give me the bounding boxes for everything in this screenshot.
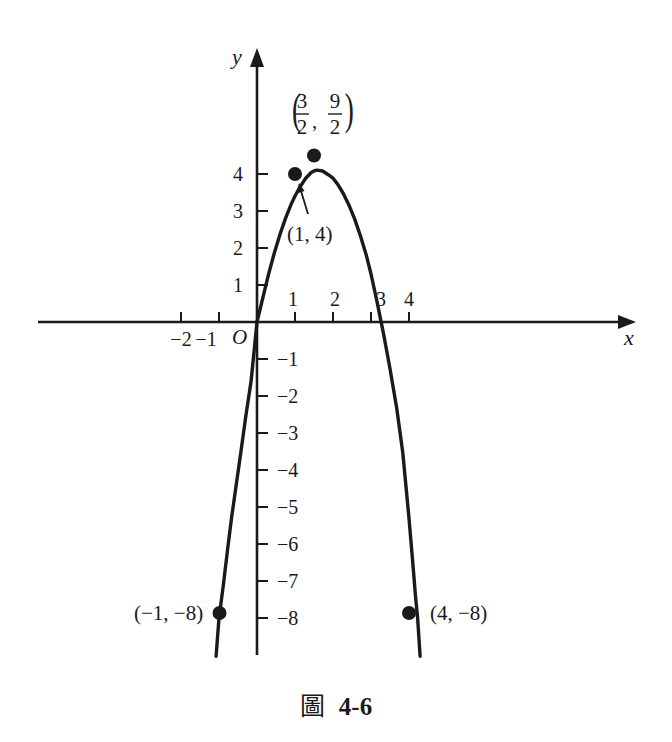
point-1-4 <box>288 167 302 181</box>
figure-caption: 圖4-6 <box>0 686 672 722</box>
svg-text:2: 2 <box>330 115 341 139</box>
y-tick-label: 4 <box>233 163 243 185</box>
y-ticks <box>257 174 268 618</box>
point-4-m8 <box>402 606 416 620</box>
svg-text:,: , <box>312 109 317 133</box>
y-axis-arrow-icon <box>250 48 264 67</box>
parabola-figure: −2 −1 1 2 3 4 4 3 2 1 −1 −2 −3 −4 −5 −6 … <box>0 0 672 742</box>
vertex-point <box>307 149 321 163</box>
y-tick-label: −7 <box>277 570 298 592</box>
svg-text:): ) <box>345 84 354 133</box>
svg-text:2: 2 <box>297 115 308 139</box>
svg-text:3: 3 <box>297 89 308 113</box>
svg-text:9: 9 <box>330 89 341 113</box>
x-tick-label: 4 <box>404 288 414 310</box>
y-tick-label: −3 <box>277 422 298 444</box>
y-tick-label: −1 <box>277 348 298 370</box>
x-tick-label: 1 <box>288 288 298 310</box>
y-axis-label: y <box>230 44 242 69</box>
point-label-m1-m8: (−1, −8) <box>134 601 203 625</box>
y-tick-label: −2 <box>277 385 298 407</box>
vertex-label: ( 3 2 , 9 2 ) <box>292 84 354 139</box>
x-tick-label: 2 <box>330 288 340 310</box>
y-tick-label: 1 <box>233 274 243 296</box>
y-tick-label: −6 <box>277 533 298 555</box>
y-tick-label: 3 <box>233 200 243 222</box>
point-label-1-4: (1, 4) <box>287 222 333 246</box>
origin-label: O <box>232 325 247 349</box>
axes <box>38 62 622 655</box>
annotation-arrow <box>301 191 308 214</box>
x-tick-label: −1 <box>195 328 216 350</box>
y-tick-label: −5 <box>277 496 298 518</box>
y-tick-label: −4 <box>277 459 298 481</box>
y-tick-label: 2 <box>233 237 243 259</box>
x-axis-label: x <box>623 325 634 350</box>
caption-char: 圖 <box>300 693 325 720</box>
x-tick-label: −2 <box>170 328 191 350</box>
point-m1-m8 <box>213 606 227 620</box>
caption-number: 4-6 <box>339 693 372 720</box>
point-label-4-m8: (4, −8) <box>430 601 487 625</box>
y-tick-label: −8 <box>277 607 298 629</box>
x-ticks <box>181 312 409 322</box>
